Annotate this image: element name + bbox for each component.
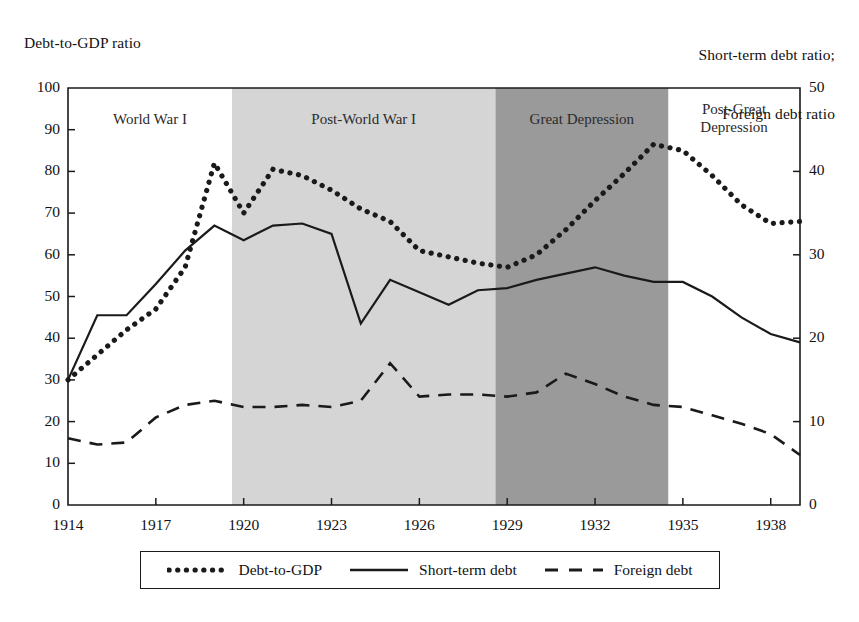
legend-entry: Short-term debt — [348, 561, 517, 579]
regime-band-1 — [232, 88, 496, 505]
x-axis-tick-label: 1920 — [214, 516, 274, 534]
legend-swatch-dashed — [543, 563, 605, 577]
y-axis-left-tick-label: 80 — [20, 161, 60, 179]
y-axis-right-tick-label: 50 — [809, 78, 849, 96]
legend-label: Foreign debt — [614, 561, 693, 579]
regime-band-2 — [495, 88, 668, 505]
regime-band-label-line: Post-Great — [639, 100, 829, 118]
x-axis-tick-label: 1923 — [302, 516, 362, 534]
regime-bands — [232, 88, 668, 505]
y-axis-left-tick-label: 100 — [20, 78, 60, 96]
y-axis-right-tick-label: 40 — [809, 161, 849, 179]
legend-label: Debt-to-GDP — [238, 561, 322, 579]
legend-entry: Debt-to-GDP — [167, 561, 322, 579]
y-axis-right-tick-label: 0 — [809, 495, 849, 513]
x-axis-tick-label: 1929 — [477, 516, 537, 534]
x-axis-tick-label: 1935 — [653, 516, 713, 534]
regime-band-label-line: Post-World War I — [269, 110, 459, 128]
legend-entry: Foreign debt — [543, 561, 693, 579]
x-axis-tick-label: 1938 — [741, 516, 801, 534]
y-axis-left-tick-label: 40 — [20, 328, 60, 346]
legend-label: Short-term debt — [419, 561, 517, 579]
x-axis-tick-label: 1932 — [565, 516, 625, 534]
x-axis-tick-label: 1926 — [389, 516, 449, 534]
regime-band-label-line: World War I — [55, 110, 245, 128]
regime-band-label: World War I — [55, 110, 245, 128]
regime-band-label: Post-World War I — [269, 110, 459, 128]
y-axis-left-tick-label: 10 — [20, 453, 60, 471]
x-axis-tick-label: 1917 — [126, 516, 186, 534]
regime-band-label: Post-GreatDepression — [639, 100, 829, 137]
y-axis-left-tick-label: 30 — [20, 370, 60, 388]
x-axis-tick-label: 1914 — [38, 516, 98, 534]
y-axis-left-tick-label: 20 — [20, 412, 60, 430]
y-axis-left-tick-label: 50 — [20, 287, 60, 305]
y-axis-right-tick-label: 10 — [809, 412, 849, 430]
legend-entries: Debt-to-GDPShort-term debtForeign debt — [141, 552, 719, 588]
regime-band-label-line: Depression — [639, 118, 829, 136]
y-axis-left-tick-label: 0 — [20, 495, 60, 513]
legend-swatch-dotted — [167, 563, 229, 577]
y-axis-left-tick-label: 70 — [20, 203, 60, 221]
chart-figure: Debt-to-GDP ratio Short-term debt ratio;… — [0, 0, 859, 622]
y-axis-left-tick-label: 60 — [20, 245, 60, 263]
y-axis-right-tick-label: 20 — [809, 328, 849, 346]
legend-swatch-solid — [348, 563, 410, 577]
legend: Debt-to-GDPShort-term debtForeign debt — [140, 551, 720, 589]
y-axis-right-tick-label: 30 — [809, 245, 849, 263]
